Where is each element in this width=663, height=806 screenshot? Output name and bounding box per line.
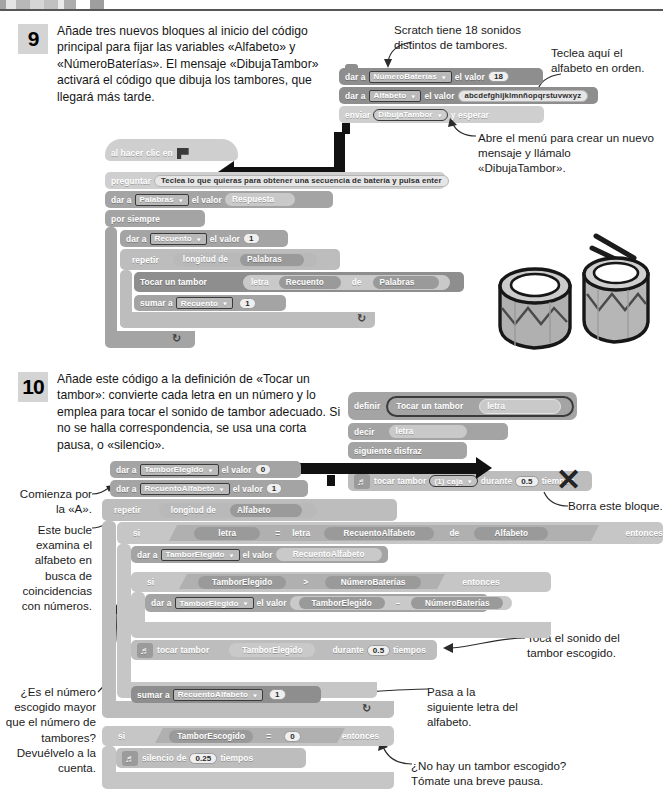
reporter-longitud-de-alfabeto[interactable]: longitud de Alfabeto	[159, 503, 317, 518]
input-numerobaterias-value[interactable]: 18	[488, 71, 509, 82]
big-arrow-head	[476, 457, 492, 479]
green-flag-icon	[177, 148, 189, 159]
chevron-down-icon: ▼	[410, 93, 416, 99]
dropdown-value: DibujaTambor	[378, 110, 432, 119]
block-siguiente-disfraz[interactable]: siguiente disfraz	[348, 442, 467, 459]
block-label-si: si	[118, 731, 125, 741]
dropdown-drum-1-caja[interactable]: (1) caja ▼	[429, 475, 477, 487]
custom-block-prototype[interactable]: Tocar un tambor letra	[386, 396, 574, 417]
reporter-recuentoalfabeto[interactable]: RecuentoAlfabeto	[324, 527, 434, 540]
reporter-letra-param[interactable]: letra	[194, 527, 260, 540]
block-ask-and-wait[interactable]: preguntar Teclea lo que quieras para obt…	[105, 172, 445, 189]
block-set-tamborelegido-0[interactable]: dar a TamborElegido ▼ el valor 0	[110, 461, 301, 478]
annotation-scratch-sounds: Scratch tiene 18 sonidos distintos de ta…	[394, 22, 534, 52]
block-tocar-un-tambor-call[interactable]: Tocar un tambor letra Recuento de Palabr…	[134, 272, 464, 292]
dropdown-recuento-change[interactable]: Recuento ▼	[176, 297, 233, 309]
custom-block-param-letra[interactable]: letra	[479, 399, 561, 414]
dropdown-dibujatambor[interactable]: DibujaTambor ▼	[373, 109, 447, 121]
reporter-alfabeto[interactable]: Alfabeto	[230, 504, 302, 517]
block-set-palabras[interactable]: dar a Palabras ▼ el valor Respuesta	[105, 191, 333, 208]
reporter-palabras-src[interactable]: Palabras	[373, 276, 439, 289]
chevron-down-icon: ▼	[467, 479, 473, 485]
dropdown-recuentoalfabeto-2[interactable]: RecuentoAlfabeto ▼	[173, 689, 263, 701]
dropdown-alfabeto[interactable]: Alfabeto ▼	[369, 90, 422, 102]
dropdown-value: Palabras	[140, 195, 174, 204]
input-recuentoalfabeto-1[interactable]: 1	[266, 483, 283, 494]
block-if-letter-content: si letra = letra RecuentoAlfabeto de Alf…	[127, 522, 663, 544]
block-set-tamborelegido-count[interactable]: dar a TamborElegido ▼ el valor RecuentoA…	[131, 546, 388, 563]
input-change-alfabeto[interactable]: 1	[269, 689, 286, 700]
chevron-down-icon: ▼	[207, 467, 213, 473]
reporter-numerobaterias[interactable]: NúmeroBaterías	[325, 576, 421, 589]
block-label-dar-a: dar a	[111, 195, 132, 205]
block-tocar-tambor-elegido[interactable]: ♬ tocar tambor TamborElegido durante 0.5…	[131, 640, 437, 660]
dropdown-palabras[interactable]: Palabras ▼	[135, 194, 189, 206]
block-change-recuentoalfabeto[interactable]: sumar a RecuentoAlfabeto ▼ 1	[131, 686, 321, 703]
block-label-el-valor: el valor	[233, 484, 263, 494]
reporter-palabras[interactable]: Palabras	[240, 254, 304, 266]
input-ask-prompt[interactable]: Teclea lo que quieras para obtener una s…	[154, 175, 449, 187]
dropdown-recuento[interactable]: Recuento ▼	[150, 233, 207, 245]
block-set-recuento[interactable]: dar a Recuento ▼ el valor 1	[120, 230, 288, 247]
block-when-flag-clicked[interactable]: al hacer clic en	[105, 139, 238, 161]
block-decir-letra[interactable]: decir letra	[348, 423, 508, 440]
dropdown-value: RecuentoAlfabeto	[145, 484, 215, 493]
block-set-alfabeto[interactable]: dar a Alfabeto ▼ el valor abcdefghijklmn…	[339, 87, 598, 104]
block-label-por-siempre: por siempre	[111, 214, 160, 224]
reporter-letra-de[interactable]: letra Recuento de Palabras	[243, 275, 450, 290]
block-forever-foot	[105, 331, 195, 348]
input-change-recuento-value[interactable]: 1	[239, 298, 256, 309]
block-silencio[interactable]: ♬ silencio de 0.25 tiempos	[116, 748, 306, 768]
big-arrow-shaft	[294, 463, 478, 474]
block-define-tocar-un-tambor[interactable]: definir Tocar un tambor letra	[348, 392, 577, 420]
reporter-longitud-de[interactable]: longitud de Palabras	[173, 253, 317, 267]
delete-x-icon: ✕	[556, 465, 581, 495]
block-label-entonces: entonces	[462, 577, 500, 587]
dropdown-tamborelegido-3[interactable]: TamborElegido ▼	[175, 597, 254, 609]
input-beats-05[interactable]: 0.5	[515, 476, 538, 487]
block-label-dar-a: dar a	[116, 465, 137, 475]
reporter-tamborelegido[interactable]: TamborElegido	[198, 576, 286, 589]
dropdown-tamborelegido[interactable]: TamborElegido ▼	[140, 464, 219, 476]
reporter-label-letra: letra	[292, 528, 310, 538]
dropdown-recuentoalfabeto[interactable]: RecuentoAlfabeto ▼	[140, 483, 230, 495]
block-label-dar-a: dar a	[137, 550, 158, 560]
repeat10-loop-arrow-icon: ↻	[362, 702, 371, 715]
dropdown-tamborelegido-2[interactable]: TamborElegido ▼	[161, 549, 240, 561]
input-rest-beats[interactable]: 0.25	[189, 753, 217, 764]
chevron-down-icon: ▼	[228, 552, 234, 558]
block-label-al-hacer-clic-en: al hacer clic en	[111, 148, 173, 158]
input-alfabeto-value[interactable]: abcdefghijklmnñopqrstuvwxyz	[458, 90, 589, 102]
block-repeat-foot-wide	[120, 312, 375, 328]
reporter-tamborescogido[interactable]: TamborEscogido	[169, 730, 253, 743]
annotation-delete-block: Borra este bloque.	[568, 498, 663, 513]
block-set-numerobaterias[interactable]: dar a NúmeroBaterías ▼ el valor 18	[339, 68, 543, 85]
block-set-recuentoalfabeto-1[interactable]: dar a RecuentoAlfabeto ▼ el valor 1	[110, 480, 308, 497]
block-label-por-siempre-wrap: por siempre	[105, 210, 205, 227]
block-label-sumar-a: sumar a	[137, 690, 170, 700]
reporter-letra[interactable]: letra	[389, 425, 467, 438]
reporter-recuentoalfabeto-2[interactable]: RecuentoAlfabeto	[276, 548, 382, 561]
input-tamborelegido-0[interactable]: 0	[255, 464, 272, 475]
block-set-tamborelegido-wrap[interactable]: dar a TamborElegido ▼ el valor TamborEle…	[145, 594, 488, 612]
annotation-no-drum: ¿No hay un tambor escogido? Tómate una b…	[411, 758, 583, 788]
reporter-respuesta[interactable]: Respuesta	[225, 193, 295, 206]
operand-tamborelegido[interactable]: TamborElegido	[299, 597, 385, 609]
block-label-durante: durante	[332, 645, 363, 655]
step-9-text: Añade tres nuevos bloques al inicio del …	[57, 23, 327, 105]
block-label-tiempos: tiempos	[393, 645, 426, 655]
reporter-subtraction[interactable]: TamborElegido – NúmeroBaterías	[290, 596, 513, 610]
operand-numerobaterias[interactable]: NúmeroBaterías	[411, 597, 503, 609]
dropdown-numerobaterias[interactable]: NúmeroBaterías ▼	[369, 71, 452, 83]
block-change-recuento[interactable]: sumar a Recuento ▼ 1	[134, 295, 286, 311]
block-label-el-valor: el valor	[243, 550, 273, 560]
input-play-beats[interactable]: 0.5	[367, 645, 390, 656]
block-label-dar-a: dar a	[116, 484, 137, 494]
input-zero[interactable]: 0	[284, 731, 301, 742]
drum-right	[584, 258, 648, 342]
reporter-tamborelegido-play[interactable]: TamborElegido	[229, 643, 315, 657]
input-recuento-value[interactable]: 1	[243, 233, 260, 244]
dropdown-value: TamborElegido	[166, 550, 225, 559]
reporter-recuento[interactable]: Recuento	[279, 276, 341, 289]
reporter-alfabeto-src[interactable]: Alfabeto	[474, 527, 548, 540]
